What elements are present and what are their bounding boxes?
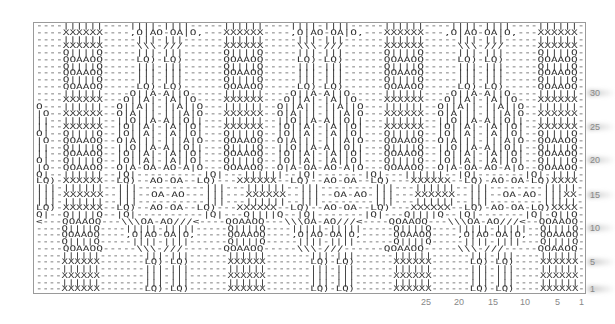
row-number-label: 1 xyxy=(590,284,595,294)
chart-row: ----XXXXXX-------LQ)-LQ)------XXXXXX----… xyxy=(36,286,585,293)
knitting-chart-grid: ----||||||----||||-||||-----||||||----||… xyxy=(33,22,586,294)
row-number-label: 15 xyxy=(590,190,600,200)
column-number-label: 1 xyxy=(579,297,584,307)
row-number-label: 25 xyxy=(590,122,600,132)
column-number-label: 25 xyxy=(421,297,431,307)
column-number-label: 10 xyxy=(520,297,530,307)
row-number-label: 10 xyxy=(590,223,600,233)
row-number-label: 20 xyxy=(590,155,600,165)
row-number-label: 5 xyxy=(590,257,595,267)
row-number-label: 30 xyxy=(590,88,600,98)
column-number-label: 5 xyxy=(555,297,560,307)
column-number-label: 20 xyxy=(454,297,464,307)
column-number-label: 15 xyxy=(488,297,498,307)
